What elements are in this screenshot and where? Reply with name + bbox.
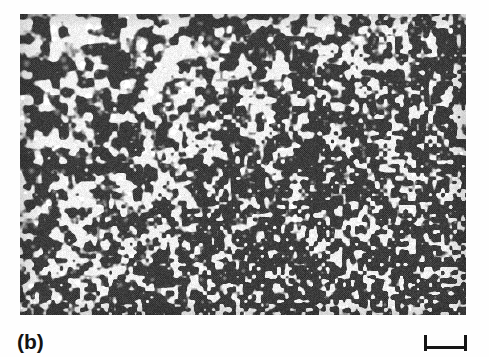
electron-micrograph-panel	[20, 14, 466, 315]
figure-root: (b)	[0, 0, 489, 357]
panel-label: (b)	[17, 330, 44, 354]
scale-bar-rule	[424, 346, 467, 349]
scale-bar-right-cap	[464, 335, 467, 351]
micrograph-image	[20, 14, 466, 315]
scale-bar	[424, 335, 467, 353]
